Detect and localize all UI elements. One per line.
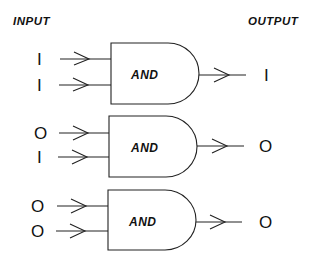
and-gate-2: O I AND O (34, 116, 272, 177)
and-gate-1: I I AND I (37, 43, 269, 104)
gate-2-label: AND (130, 141, 159, 155)
gate-1-output: I (264, 66, 269, 85)
gate-1-input-b: I (37, 76, 42, 95)
gate-2-input-a: O (34, 124, 47, 143)
gate-1-label: AND (130, 68, 159, 82)
gate-3-input-a: O (31, 197, 44, 216)
output-header: OUTPUT (248, 15, 299, 27)
and-gate-3: O O AND O (31, 190, 272, 250)
gate-3-label: AND (128, 215, 157, 229)
gate-2-output: O (259, 137, 272, 156)
gate-3-input-b: O (31, 222, 44, 241)
input-header: INPUT (13, 15, 50, 27)
gate-1-input-a: I (37, 50, 42, 69)
gate-3-output: O (259, 213, 272, 232)
and-gate-diagram: INPUT OUTPUT I I AND I O I AND O O O (0, 0, 318, 263)
gate-2-input-b: I (37, 148, 42, 167)
